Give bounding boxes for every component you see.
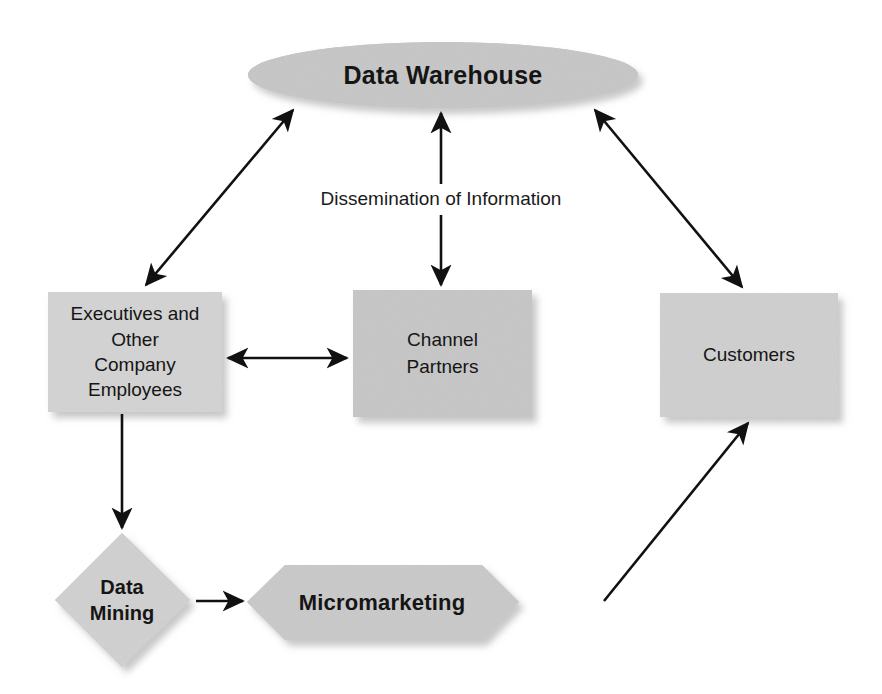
edge-warehouse-customers[interactable] [595, 110, 742, 287]
shape-micromarketing-hexagon[interactable] [247, 565, 519, 640]
shape-data-warehouse-ellipse[interactable] [248, 42, 638, 108]
shape-executives-box[interactable] [48, 292, 222, 412]
edge-micromarketing-customers[interactable] [604, 423, 748, 601]
diagram-vector-layer [0, 0, 882, 694]
shape-channel-partners-box[interactable] [353, 290, 532, 417]
shape-customers-box[interactable] [660, 293, 838, 417]
edge-warehouse-executives[interactable] [146, 110, 293, 285]
shape-data-mining-diamond[interactable] [55, 533, 190, 667]
diagram-canvas: Data Warehouse Executives and Other Comp… [0, 0, 882, 694]
